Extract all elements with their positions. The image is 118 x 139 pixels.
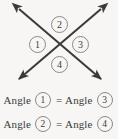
angle-badge-2: 2	[51, 16, 68, 33]
equation-1-right-word: Angle	[65, 94, 92, 106]
equation-1-left-word: Angle	[4, 94, 31, 106]
equation-row-1: Angle 1 = Angle 3	[0, 88, 118, 112]
equation-1-right-badge: 3	[97, 92, 113, 108]
equation-list: Angle 1 = Angle 3 Angle 2 = Angle 4	[0, 86, 118, 139]
equation-2-left-word: Angle	[4, 118, 31, 130]
equation-2-right-word: Angle	[65, 118, 92, 130]
intersecting-lines-svg	[0, 0, 118, 86]
angle-badge-1: 1	[29, 36, 46, 53]
vertical-angles-figure: 1 2 3 4 Angle 1 = Angle 3 Angle 2 = Angl…	[0, 0, 118, 139]
angle-diagram: 1 2 3 4	[0, 0, 118, 86]
equation-2-operator: =	[56, 118, 62, 130]
angle-badge-3: 3	[72, 36, 89, 53]
equation-2-right-badge: 4	[97, 116, 113, 132]
angle-badge-4: 4	[51, 56, 68, 73]
equation-2-left-badge: 2	[35, 116, 51, 132]
equation-row-2: Angle 2 = Angle 4	[0, 112, 118, 136]
equation-1-left-badge: 1	[35, 92, 51, 108]
equation-1-operator: =	[56, 94, 62, 106]
